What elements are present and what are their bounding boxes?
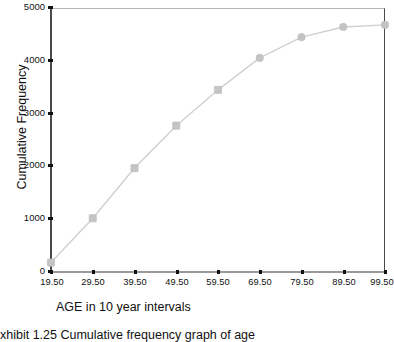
data-point — [340, 23, 347, 30]
series-markers — [47, 21, 388, 266]
data-point — [131, 164, 138, 171]
figure-caption: xhibit 1.25 Cumulative frequency graph o… — [0, 328, 255, 342]
data-point — [381, 21, 388, 28]
data-point — [89, 215, 96, 222]
y-axis-title: Cumulative Frequency — [15, 42, 29, 212]
data-point — [47, 259, 54, 266]
data-point — [214, 86, 221, 93]
data-point — [298, 34, 305, 41]
x-axis-title: AGE in 10 year intervals — [56, 300, 191, 314]
data-point — [256, 54, 263, 61]
data-point — [173, 122, 180, 129]
series-line — [51, 25, 385, 263]
